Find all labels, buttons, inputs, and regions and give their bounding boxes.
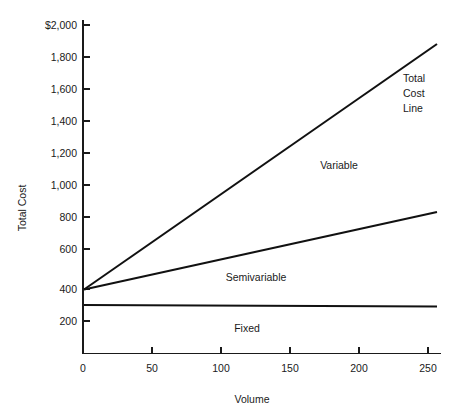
annotation-total-cost-line-word3: Line xyxy=(403,102,423,114)
y-tick-label-800: 800 xyxy=(59,211,77,223)
y-axis-title: Total Cost xyxy=(16,185,28,232)
annotation-group: Total Cost Line Variable Semivariable Fi… xyxy=(226,72,426,334)
x-tick-label-250: 250 xyxy=(419,362,437,374)
x-tick-label-150: 150 xyxy=(281,362,299,374)
chart-canvas: $2,000 1,800 1,600 1,400 1,200 1,000 800… xyxy=(0,0,451,414)
y-tick-label-1200: 1,200 xyxy=(51,147,77,159)
x-tick-label-100: 100 xyxy=(212,362,230,374)
y-tick-label-2000: $2,000 xyxy=(45,19,77,31)
axis-group xyxy=(83,20,441,354)
series-line-total-cost xyxy=(84,44,437,290)
y-tick-label-1600: 1,600 xyxy=(51,83,77,95)
series-group xyxy=(84,44,437,307)
x-tick-label-0: 0 xyxy=(80,362,86,374)
cost-behavior-chart: $2,000 1,800 1,600 1,400 1,200 1,000 800… xyxy=(0,0,451,414)
annotation-variable: Variable xyxy=(320,159,358,171)
y-tick-label-600: 600 xyxy=(59,243,77,255)
y-tick-label-200: 200 xyxy=(59,315,77,327)
y-tick-label-1800: 1,800 xyxy=(51,51,77,63)
y-tick-label-1000: 1,000 xyxy=(51,179,77,191)
y-tick-label-400: 400 xyxy=(59,283,77,295)
annotation-fixed: Fixed xyxy=(234,322,260,334)
annotation-total-cost-line-word2: Cost xyxy=(403,87,425,99)
y-tick-labels: $2,000 1,800 1,600 1,400 1,200 1,000 800… xyxy=(45,19,77,327)
x-tick-marks xyxy=(152,347,428,353)
annotation-semivariable: Semivariable xyxy=(226,271,287,283)
x-axis-title: Volume xyxy=(234,393,269,405)
series-line-fixed xyxy=(84,305,437,307)
annotation-total-cost-line-word1: Total xyxy=(403,72,425,84)
x-tick-label-50: 50 xyxy=(146,362,158,374)
y-tick-marks xyxy=(84,25,91,321)
x-tick-labels: 0 50 100 150 200 250 xyxy=(80,362,437,374)
x-tick-label-200: 200 xyxy=(350,362,368,374)
y-tick-label-1400: 1,400 xyxy=(51,115,77,127)
